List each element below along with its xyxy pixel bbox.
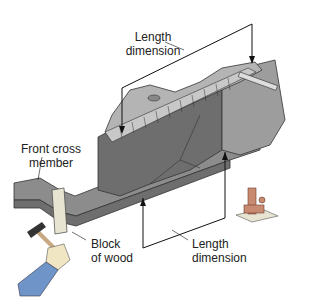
jack-stand	[236, 188, 278, 222]
label-front-cross-member: Front crossmember	[18, 142, 84, 170]
label-length-dimension-top: Lengthdimension	[120, 30, 186, 58]
block-of-wood	[52, 188, 67, 234]
label-length-dimension-bottom: Lengthdimension	[192, 237, 247, 265]
label-block-of-wood: Blockof wood	[91, 237, 133, 265]
